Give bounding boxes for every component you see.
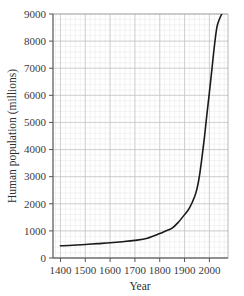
y-tick-label: 1000 [24, 225, 47, 237]
y-axis-ticks [49, 14, 53, 258]
x-axis-title: Year [129, 280, 150, 292]
y-tick-label: 6000 [24, 89, 47, 101]
y-axis-tick-labels: 0100020003000400050006000700080009000 [24, 8, 47, 264]
y-tick-label: 9000 [24, 8, 47, 20]
y-tick-label: 4000 [24, 143, 47, 155]
x-tick-label: 1700 [124, 264, 147, 276]
y-tick-label: 7000 [24, 62, 47, 74]
x-tick-label: 1400 [49, 264, 72, 276]
y-tick-label: 5000 [24, 116, 47, 128]
x-tick-label: 1600 [99, 264, 122, 276]
y-tick-label: 2000 [24, 198, 47, 210]
y-tick-label: 0 [41, 252, 47, 264]
x-tick-label: 1900 [174, 264, 197, 276]
x-axis-tick-labels: 1400150016001700180019002000 [49, 264, 220, 276]
x-tick-label: 1800 [149, 264, 172, 276]
x-tick-label: 2000 [198, 264, 221, 276]
major-gridlines [53, 14, 228, 258]
population-curve [60, 14, 221, 246]
y-axis-title: Human population (millions) [6, 69, 19, 203]
population-growth-chart: 0100020003000400050006000700080009000 14… [0, 0, 244, 296]
plot-frame [53, 14, 228, 258]
x-tick-label: 1500 [74, 264, 97, 276]
minor-gridlines [53, 14, 228, 258]
y-tick-label: 8000 [24, 35, 47, 47]
y-tick-label: 3000 [24, 170, 47, 182]
x-axis-ticks [60, 258, 209, 262]
chart-figure: 0100020003000400050006000700080009000 14… [0, 0, 244, 296]
